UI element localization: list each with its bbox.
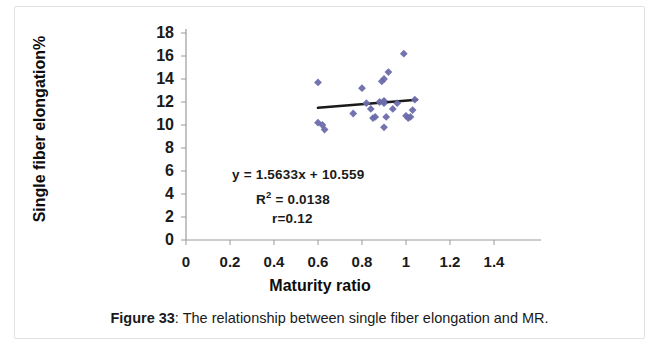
- x-tick-label: 0.4: [251, 254, 297, 269]
- x-tick-label: 0.8: [339, 254, 385, 269]
- x-tick-label: 0: [163, 254, 209, 269]
- y-tick-label: 18: [148, 25, 174, 41]
- y-tick-label: 10: [148, 117, 174, 133]
- y-tick-label: 8: [148, 140, 174, 156]
- axes: [181, 29, 541, 245]
- figure-caption: Figure 33: The relationship between sing…: [0, 310, 659, 326]
- figure-caption-text: The relationship between single fiber el…: [179, 310, 549, 326]
- x-axis-title: Maturity ratio: [180, 277, 460, 295]
- r-squared-value: = 0.0138: [271, 192, 329, 207]
- scatter-chart: 024681012141618 00.20.40.60.811.21.4 Sin…: [0, 0, 659, 300]
- x-tick-label: 1.2: [427, 254, 473, 269]
- x-tick-label: 1.4: [471, 254, 517, 269]
- y-tick-label: 2: [148, 209, 174, 225]
- x-tick-label: 0.6: [295, 254, 341, 269]
- figure-caption-label: Figure 33: [110, 310, 174, 326]
- y-tick-label: 14: [148, 71, 174, 87]
- y-tick-label: 6: [148, 163, 174, 179]
- data-points: [314, 50, 419, 134]
- y-tick-label: 12: [148, 94, 174, 110]
- r-squared-prefix: R: [256, 192, 266, 207]
- x-tick-label: 0.2: [207, 254, 253, 269]
- y-axis-title: Single fiber elongation%: [31, 19, 49, 239]
- r-squared-annotation: R2 = 0.0138: [256, 189, 330, 207]
- y-tick-label: 0: [148, 232, 174, 248]
- regression-equation-annotation: y = 1.5633x + 10.559: [232, 167, 364, 182]
- x-tick-label: 1: [383, 254, 429, 269]
- figure-container: 024681012141618 00.20.40.60.811.21.4 Sin…: [0, 0, 659, 347]
- y-tick-label: 16: [148, 48, 174, 64]
- y-tick-label: 4: [148, 186, 174, 202]
- correlation-annotation: r=0.12: [272, 211, 313, 226]
